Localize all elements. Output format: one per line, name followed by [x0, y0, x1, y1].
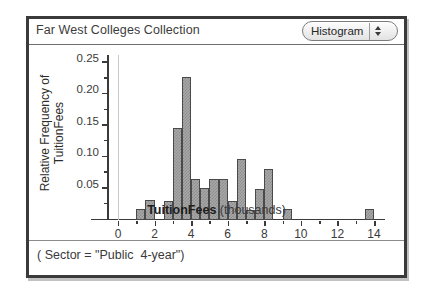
- x-axis-tick: [228, 221, 230, 226]
- y-axis-tick: [102, 61, 107, 63]
- y-axis-minor-tick: [104, 140, 107, 142]
- x-axis-minor-tick: [319, 221, 321, 224]
- x-axis-title: TuitionFees (thousands): [29, 203, 404, 217]
- y-axis-minor-tick: [104, 77, 107, 79]
- chevron-up-icon: [375, 26, 381, 30]
- plot-area: Relative Frequency of TuitionFees 0.050.…: [29, 45, 404, 237]
- x-axis-title-unit: (thousands): [220, 203, 286, 217]
- x-axis-tick: [191, 221, 193, 226]
- y-axis-tick-label: 0.10: [77, 146, 99, 158]
- histogram-bar[interactable]: [182, 77, 191, 220]
- plot-type-popup-button[interactable]: Histogram: [302, 21, 398, 41]
- y-axis-tick: [102, 187, 107, 189]
- x-axis-minor-tick: [136, 221, 138, 224]
- y-axis-tick: [102, 124, 107, 126]
- y-axis-tick-label: 0.05: [77, 178, 99, 190]
- x-axis-tick: [301, 221, 303, 226]
- y-axis-tick: [102, 93, 107, 95]
- y-axis-title-line1: Relative Frequency of: [38, 75, 52, 192]
- x-axis-tick-label: 4: [188, 227, 195, 241]
- y-axis-minor-tick: [104, 171, 107, 173]
- y-axis-line: [107, 55, 109, 220]
- y-axis-title-line2: TuitionFees: [52, 75, 66, 192]
- x-axis-tick: [264, 221, 266, 226]
- window-titlebar: Far West Colleges Collection Histogram: [29, 19, 404, 45]
- filter-footer: ( Sector = "Public 4-year"): [29, 240, 404, 275]
- x-axis-minor-tick: [356, 221, 358, 224]
- plot-type-stepper[interactable]: [369, 23, 386, 40]
- x-axis-minor-tick: [246, 221, 248, 224]
- x-axis-tick: [118, 221, 120, 226]
- x-axis-tick: [337, 221, 339, 226]
- plot-window: Far West Colleges Collection Histogram R…: [26, 16, 407, 278]
- y-axis-title: Relative Frequency of TuitionFees: [35, 53, 69, 213]
- x-axis-tick-label: 2: [151, 227, 158, 241]
- x-axis-minor-tick: [283, 221, 285, 224]
- collection-title: Far West Colleges Collection: [36, 23, 200, 37]
- y-axis-tick-label: 0.25: [77, 52, 99, 64]
- y-axis-tick: [102, 156, 107, 158]
- zero-reference-line: [118, 55, 119, 220]
- plot-type-label: Histogram: [311, 25, 369, 37]
- x-axis-tick-label: 10: [294, 227, 307, 241]
- y-axis-tick-label: 0.15: [77, 115, 99, 127]
- x-axis-title-variable: TuitionFees: [147, 203, 216, 217]
- x-axis-tick-label: 14: [367, 227, 380, 241]
- x-axis-minor-tick: [173, 221, 175, 224]
- x-axis-tick-label: 12: [331, 227, 344, 241]
- x-axis-tick: [374, 221, 376, 226]
- y-axis-tick-label: 0.20: [77, 83, 99, 95]
- filter-caption: ( Sector = "Public 4-year"): [37, 248, 184, 262]
- chart-axes: 0.050.100.150.200.25 02468101214: [107, 55, 385, 220]
- y-axis-minor-tick: [104, 109, 107, 111]
- x-axis-tick-label: 8: [261, 227, 268, 241]
- x-axis-tick: [155, 221, 157, 226]
- x-axis-minor-tick: [209, 221, 211, 224]
- x-axis-tick-label: 6: [224, 227, 231, 241]
- x-axis-tick-label: 0: [115, 227, 122, 241]
- chevron-down-icon: [375, 32, 381, 36]
